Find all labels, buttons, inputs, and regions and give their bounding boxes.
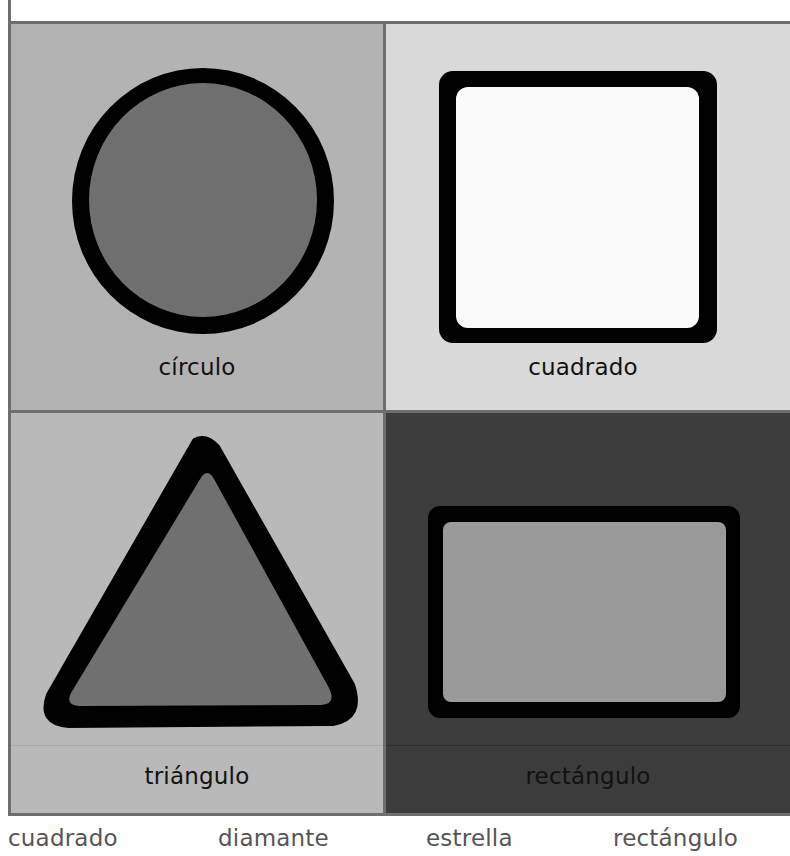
panel-triangle: triángulo xyxy=(11,413,383,813)
circle-shape-icon xyxy=(11,24,383,410)
square-shape-icon xyxy=(386,24,790,410)
shapes-grid: círculo cuadrado triángulo rectángulo xyxy=(8,21,790,816)
caption-square: cuadrado xyxy=(386,354,790,380)
panel-circle: círculo xyxy=(11,24,383,410)
rectangle-shape-icon xyxy=(386,413,790,813)
word-bank-item: rectángulo xyxy=(613,825,738,851)
word-bank-item: estrella xyxy=(426,825,513,851)
word-bank-item: cuadrado xyxy=(8,825,118,851)
top-blank-area xyxy=(8,0,786,22)
panel-rectangle: rectángulo xyxy=(386,413,790,813)
word-bank-item: diamante xyxy=(218,825,329,851)
panel-square: cuadrado xyxy=(386,24,790,410)
caption-rectangle: rectángulo xyxy=(386,763,790,789)
caption-circle: círculo xyxy=(11,354,383,380)
triangle-shape-icon xyxy=(11,413,383,813)
caption-triangle: triángulo xyxy=(11,763,383,789)
word-bank: cuadrado diamante estrella rectángulo xyxy=(0,822,786,856)
